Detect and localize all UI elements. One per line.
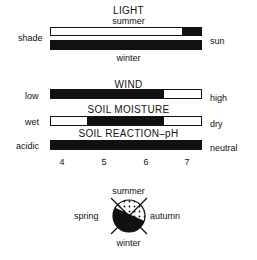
soil-moisture-wet-label: wet [25,117,39,127]
soil-reaction-neutral-label: neutral [210,143,238,153]
light-winter-fill [51,41,201,49]
soil-moisture-fill [87,117,164,125]
wind-bar [50,89,202,99]
season-autumn-label: autumn [150,211,180,221]
light-sun-label: sun [210,36,225,46]
soil-moisture-bar [50,116,202,126]
light-summer-fill [182,28,201,35]
season-winter-label: winter [0,238,257,248]
wind-low-label: low [25,91,39,101]
light-winter-label: winter [0,53,257,63]
season-circle-icon [107,194,151,238]
soil-reaction-fill [51,141,201,149]
ph-tick-5: 5 [98,157,110,167]
soil-reaction-bar [50,140,202,150]
soil-reaction-title: SOIL REACTION–pH [0,128,257,139]
light-summer-label: summer [0,16,257,26]
ph-tick-7: 7 [181,157,193,167]
wind-high-label: high [210,93,227,103]
ph-tick-6: 6 [140,157,152,167]
light-title: LIGHT [0,5,257,16]
wind-fill [51,90,164,98]
light-winter-bar [50,40,202,50]
soil-moisture-title: SOIL MOISTURE [0,104,257,115]
ph-tick-4: 4 [56,157,68,167]
season-spring-label: spring [74,211,99,221]
light-shade-label: shade [18,33,43,43]
soil-reaction-acidic-label: acidic [16,141,39,151]
light-summer-bar [50,27,202,36]
